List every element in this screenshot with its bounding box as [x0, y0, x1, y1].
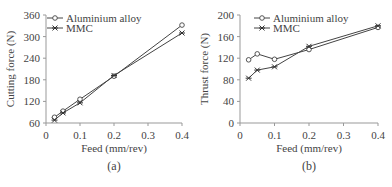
x-tick-label: 0.2 — [302, 129, 316, 141]
y-tick-label: 180 — [24, 74, 41, 86]
x-axis-label: Feed (mm/rev) — [81, 142, 147, 155]
y-axis-label: Cutting force (N) — [4, 30, 17, 107]
x-tick-label: 0.4 — [175, 129, 189, 141]
circle-marker-icon — [255, 52, 260, 57]
x-tick-label: 0 — [43, 129, 49, 141]
y-tick-label: 240 — [24, 52, 41, 64]
x-tick-label: 0.4 — [371, 129, 385, 141]
star-marker-icon — [259, 26, 265, 31]
y-tick-label: 80 — [223, 74, 235, 86]
series-line-mmc — [55, 33, 183, 120]
y-tick-label: 300 — [24, 31, 41, 43]
circle-marker-icon — [260, 16, 265, 21]
legend-label: MMC — [66, 22, 93, 34]
y-tick-label: 120 — [218, 52, 235, 64]
circle-marker-icon — [53, 16, 58, 21]
star-marker-icon — [246, 76, 252, 81]
x-tick-label: 0.3 — [141, 129, 155, 141]
x-axis-label: Feed (mm/rev) — [276, 142, 342, 155]
y-tick-label: 40 — [223, 95, 235, 107]
x-tick-label: 0.1 — [268, 129, 282, 141]
circle-marker-icon — [272, 57, 277, 62]
x-tick-label: 0 — [237, 129, 243, 141]
chart-panel-b: 0408012016020000.10.20.30.4Feed (mm/rev)… — [198, 9, 385, 173]
y-tick-label: 0 — [229, 117, 235, 129]
series-line-aluminium — [55, 25, 183, 117]
circle-marker-icon — [246, 58, 251, 63]
chart-panel-a: 6012018024030036000.10.20.30.4Feed (mm/r… — [4, 9, 189, 173]
y-axis-label: Thrust force (N) — [198, 33, 211, 105]
x-tick-label: 0.1 — [73, 129, 87, 141]
y-tick-label: 360 — [24, 9, 41, 21]
x-tick-label: 0.2 — [107, 129, 121, 141]
star-marker-icon — [272, 64, 278, 69]
y-tick-label: 200 — [218, 9, 235, 21]
star-marker-icon — [254, 68, 260, 73]
series-line-aluminium — [249, 27, 378, 59]
panel-label: (b) — [302, 159, 316, 173]
x-tick-label: 0.3 — [337, 129, 351, 141]
star-marker-icon — [52, 26, 58, 31]
panel-label: (a) — [107, 159, 120, 173]
star-marker-icon — [179, 31, 185, 36]
y-tick-label: 60 — [29, 117, 41, 129]
y-tick-label: 160 — [218, 31, 235, 43]
y-tick-label: 120 — [24, 95, 41, 107]
legend-label: MMC — [273, 22, 300, 34]
circle-marker-icon — [180, 23, 185, 28]
figure: 6012018024030036000.10.20.30.4Feed (mm/r… — [0, 0, 392, 187]
